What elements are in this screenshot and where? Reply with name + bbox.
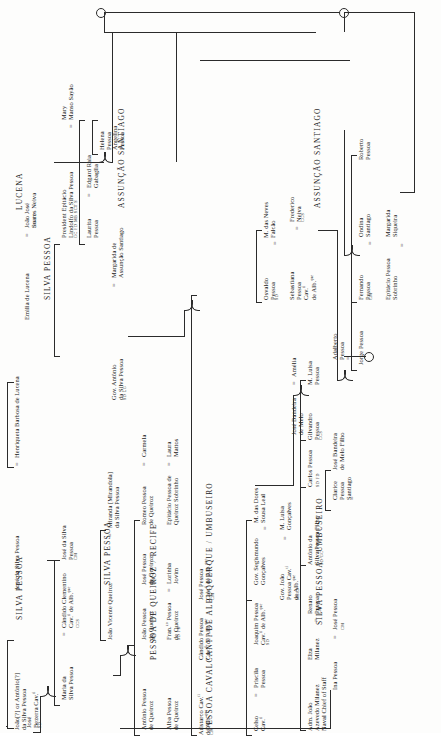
person-roberto-pessoa: RobertoPessoa [357,139,371,160]
person-mary-manso-sayao: MaryManso Sayão [60,84,74,120]
person-laura-mattos: LauraMattos [165,439,179,457]
person-m-das-neves-falcao: M. das NevesFalcão [262,202,276,238]
person-henriqueta-barbosa: Henriqueta Barbosa de Lucena [13,376,20,458]
person-miranda-mirandola: Miranda [Mirandola]da Silva Pessoa [106,472,120,528]
codes-joaquim-pessoa-cav: SD [266,639,271,645]
person-carlos-pessoa: Carlos Pessoa [306,450,313,487]
person-candido-clementino: Cândido ClementinoCav.ti de Alb.que [60,573,74,628]
person-ondina-santiago: OndinaSantiago [357,214,371,237]
person-m-das-dores-sousa-leal: M. das DoresSousa Leal [252,488,266,523]
person-jose-bandeira-de-melo-filho: José Bandeirade Melo Filho [331,432,345,470]
person-laurita-pessoa: LauritaPessoa [85,219,99,238]
person-gov-segismundo-goncalves: Gov. SegismundoGonçalves [252,538,266,585]
person-emilia-de-lucena: Emilia de Lucena [23,273,30,320]
codes-osvaldo-pessoa: SD [275,294,280,300]
person-carmela: Carmela [140,435,147,457]
person-antonio-pessoa-de-queiroz: Antônio Pessoade Queiroz [140,689,154,730]
person-adm-joao-azevedo-milanez: Adm. JoãoAzevedo MilanezNaval Chief of S… [306,677,328,731]
person-jose-da-silva-pessoa: José da Silva Pessoa [13,536,20,590]
codes-president-epitacio: GC FD MB SCT S [74,200,79,238]
codes-jose-pessoa-de-queiroz: CM [152,578,157,585]
family-header-assuncao-santiago-1: ASSUNÇÃO SANTIAGO [118,107,126,208]
person-candido-pessoa-cav: Cândido PessoaCav.ti de Alb.que [197,618,211,660]
codes-fernando-pessoa: CM [369,293,374,300]
person-epitacio-pessoa-sobrinho: Epitácio PessoaSobrinho [384,258,398,300]
family-header-silva-pessoa-top: SILVA PESSOA [44,236,52,300]
person-lorinha-jovim: LorinhaJovim [165,563,179,584]
person-joao-vicente-queiroz: João Vicente Queiroz [106,583,113,640]
person-maria-da-silva-pessoa: Maria daSilva Pessoa [60,667,74,700]
family-header-assuncao-santiago-2: ASSUNÇÃO SANTIAGO [314,107,322,208]
codes-frederico-neiva: CCS [301,213,306,222]
person-m-luisa-pessoa: M. LuisaPessoa [306,361,320,385]
person-sebastiana-pessoa-cav: SebastianaPessoaCav.tide Alb.que [288,272,317,300]
codes-joao-pessoa-de-queiroz: SD [152,634,157,640]
person-romeo-pessoa-de-queiroz: Romeo Pessoade Queiroz [140,486,154,525]
person-angelina-pessoa: AngelinaPessoa [111,126,125,150]
codes-renato-pessoa: CM [318,607,323,614]
codes-candido-clementino: CCS [76,619,81,628]
person-margarida-assuncao-santiago: Margarida deAssunção Santiago [110,227,124,278]
codes-carlos-pessoa: SD FD [316,473,321,487]
family-header-pessoa-cavalcanti: PESSOA CAVALCANTI DE ALBUQUERQUE / UMBUS… [206,482,214,730]
person-margarida-siqueira: MargaridaSiqueira [384,210,398,237]
person-epitacio-pessoa-queiroz-sobrinho: Epitácio Pessoa deQueiroz Sobrinho [165,475,179,525]
codes-francisco-pessoa-de-queiroz: SD FD [177,626,182,640]
codes-joao-jose-soares-neiva: CM FD [33,213,38,228]
person-amelia: Amélia [290,358,297,377]
codes-jose-pessoa: CM [341,623,346,630]
codes-jose-pessoa-cav: CM [211,593,216,600]
codes-antonio-da-silva-pessoa-filho: SD GC [320,551,325,565]
person-jorge-pessoa: Jorge Pessoa [357,331,364,365]
person-jose-pessoa: José Pessoa [331,599,338,630]
person-ina-pessoa: Ina Pessoa [331,662,338,690]
person-alba-pessoa-de-queiroz: Alba Pessoade Queiroz [165,697,179,730]
codes-gov-antonio-da-silva-pessoa: SD LG [123,386,128,400]
person-m-luisa-goncalves: M. LuisaGonçalves [278,502,292,530]
person-priscila-pessoa: PriscilaPessoa [252,668,266,688]
codes-jose-da-silva-pessoa-2: CM [74,553,79,560]
codes-gilvandro-pessoa: CCS [319,431,324,440]
person-elza-milanez: ElzaMilanez [306,638,320,660]
